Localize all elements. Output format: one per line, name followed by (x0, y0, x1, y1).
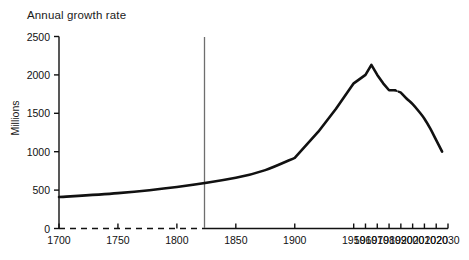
x-tick-label: 1750 (106, 234, 129, 246)
x-axis-group (59, 224, 448, 229)
x-tick-label: 2030 (436, 234, 459, 246)
plot-area (0, 0, 469, 260)
y-tick-label: 1500 (0, 107, 50, 119)
y-axis-group (54, 37, 59, 229)
data-line-historical (59, 65, 395, 197)
x-tick-label: 1800 (165, 234, 188, 246)
x-tick-label: 1700 (47, 234, 70, 246)
x-tick-label: 1900 (283, 234, 306, 246)
x-tick-label: 1850 (224, 234, 247, 246)
y-tick-label: 0 (0, 223, 50, 235)
y-tick-label: 1000 (0, 146, 50, 158)
y-tick-label: 2000 (0, 69, 50, 81)
y-axis-ticks (54, 37, 59, 229)
y-tick-label: 500 (0, 184, 50, 196)
x-axis-ticks (59, 224, 448, 229)
y-tick-label: 2500 (0, 31, 50, 43)
data-line-projection (401, 93, 442, 152)
chart-figure: Annual growth rate Millions 050010001500… (0, 0, 469, 260)
